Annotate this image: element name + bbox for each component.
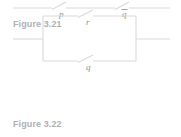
figure-3-22-caption: Figure 3.22 [13,119,62,129]
figure-page: p q Figure 3.21 r [0,0,181,137]
figure-3-22-diagram: r q [0,0,181,92]
figure-3-22: r q Figure 3.22 [0,45,181,137]
switch-r-label: r [86,17,90,27]
switch-q-label: q [86,62,91,72]
